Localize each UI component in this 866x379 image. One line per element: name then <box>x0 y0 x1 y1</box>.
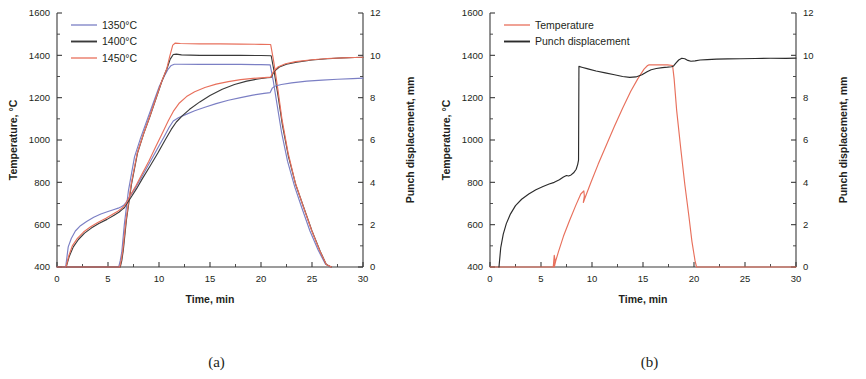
legend-label: 1450°C <box>102 52 138 64</box>
panel-b-caption: (b) <box>433 354 866 371</box>
legend-label: Punch displacement <box>535 35 630 47</box>
left-axis-tick-label: 800 <box>467 177 483 188</box>
left-axis-tick-label: 600 <box>467 219 483 230</box>
legend-label: 1400°C <box>102 35 138 47</box>
right-axis-tick-label: 10 <box>803 50 814 61</box>
right-axis-tick-label: 0 <box>803 261 808 272</box>
x-axis-tick-label: 5 <box>538 273 543 284</box>
left-axis-tick-label: 1200 <box>29 92 50 103</box>
left-axis-tick-label: 600 <box>34 219 50 230</box>
right-axis-tick-label: 8 <box>803 92 808 103</box>
right-axis-tick-label: 12 <box>370 7 381 18</box>
left-axis-tick-label: 1400 <box>462 50 483 61</box>
data-curve <box>490 65 796 267</box>
right-axis-tick-label: 6 <box>803 134 808 145</box>
x-axis-title: Time, min <box>619 293 668 305</box>
right-axis-tick-label: 4 <box>803 177 808 188</box>
right-axis-title: Punch displacement, mm <box>837 77 849 204</box>
right-axis-tick-label: 2 <box>370 219 375 230</box>
right-axis-tick-label: 6 <box>370 134 375 145</box>
left-axis-tick-label: 1400 <box>29 50 50 61</box>
right-axis-tick-label: 10 <box>370 50 381 61</box>
figure-container: 4006008001000120014001600024681012051015… <box>0 0 866 379</box>
x-axis-tick-label: 10 <box>587 273 598 284</box>
x-axis-tick-label: 0 <box>487 273 492 284</box>
legend-label: 1350°C <box>102 19 138 31</box>
right-axis-tick-label: 4 <box>370 177 375 188</box>
plot-a-svg: 4006008001000120014001600024681012051015… <box>0 0 433 330</box>
x-axis-tick-label: 0 <box>54 273 59 284</box>
data-curve <box>57 43 331 267</box>
chart-panel-a: 4006008001000120014001600024681012051015… <box>0 0 433 379</box>
left-axis-tick-label: 1600 <box>29 7 50 18</box>
left-axis-tick-label: 1200 <box>462 92 483 103</box>
data-curve <box>66 57 363 267</box>
data-curve <box>66 78 363 267</box>
right-axis-tick-label: 12 <box>803 7 814 18</box>
chart-panel-b: 4006008001000120014001600024681012051015… <box>433 0 866 379</box>
x-axis-tick-label: 25 <box>307 273 318 284</box>
x-axis-tick-label: 30 <box>791 273 802 284</box>
left-axis-tick-label: 1000 <box>462 134 483 145</box>
x-axis-tick-label: 30 <box>358 273 369 284</box>
left-axis-tick-label: 400 <box>34 261 50 272</box>
left-axis-tick-label: 1600 <box>462 7 483 18</box>
plot-b-svg: 4006008001000120014001600024681012051015… <box>433 0 866 330</box>
x-axis-title: Time, min <box>186 293 235 305</box>
x-axis-tick-label: 25 <box>740 273 751 284</box>
left-axis-title: Temperature, °C <box>7 99 19 180</box>
left-axis-tick-label: 1000 <box>29 134 50 145</box>
x-axis-tick-label: 5 <box>105 273 110 284</box>
right-axis-tick-label: 8 <box>370 92 375 103</box>
right-axis-tick-label: 0 <box>370 261 375 272</box>
left-axis-tick-label: 800 <box>34 177 50 188</box>
legend-label: Temperature <box>535 19 594 31</box>
x-axis-tick-label: 20 <box>689 273 700 284</box>
left-axis-tick-label: 400 <box>467 261 483 272</box>
x-axis-tick-label: 15 <box>205 273 216 284</box>
data-curve <box>66 57 363 267</box>
right-axis-tick-label: 2 <box>803 219 808 230</box>
panel-a-caption: (a) <box>0 354 433 371</box>
data-curve <box>57 64 330 267</box>
x-axis-tick-label: 15 <box>638 273 649 284</box>
data-curve <box>499 58 796 267</box>
left-axis-title: Temperature, °C <box>440 99 452 180</box>
x-axis-tick-label: 10 <box>154 273 165 284</box>
right-axis-title: Punch displacement, mm <box>404 77 416 204</box>
x-axis-tick-label: 20 <box>256 273 267 284</box>
